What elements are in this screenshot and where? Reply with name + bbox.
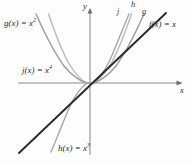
curve-tag-g: g — [142, 7, 146, 16]
exponent-2: 2 — [33, 17, 36, 23]
curve-tag-h: h — [131, 0, 135, 9]
x-axis-label: x — [180, 86, 184, 95]
y-axis-label: y — [83, 2, 87, 11]
annotation-f-function: f(x) = x — [149, 20, 176, 29]
y-axis-arrowhead — [88, 8, 93, 14]
annotation-h-function: h(x) = x3 — [58, 142, 90, 153]
exponent-3: 3 — [87, 142, 90, 148]
axes-group — [18, 8, 182, 155]
annotation-j-function: j(x) = x4 — [22, 64, 52, 75]
power-functions-chart: g(x) = x2 j(x) = x4 h(x) = x3 f(x) = x j… — [0, 0, 191, 163]
curve-tag-j: j — [117, 7, 119, 16]
annotation-g-function: g(x) = x2 — [4, 17, 36, 28]
exponent-4: 4 — [49, 64, 52, 70]
